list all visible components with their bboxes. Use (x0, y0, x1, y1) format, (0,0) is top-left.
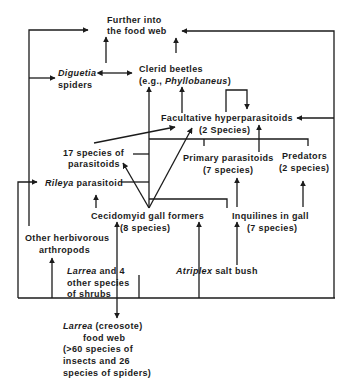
node-atriplex-salt-bush: Atriplex salt bush (175, 266, 258, 276)
predators-line1: Predators (282, 151, 327, 161)
larrea-web-line2: food web (83, 333, 125, 343)
primary-line1: Primary parasitoids (183, 153, 274, 163)
clerid-line1: Clerid beetles (139, 64, 203, 74)
node-cecidomyid-gall-formers: Cecidomyid gall formers (8 species) (91, 211, 204, 233)
node-inquilines-in-gall: Inquilines in gall (7 species) (232, 211, 309, 233)
node-rileya-parasitoid: Rileya parasitoid (45, 178, 123, 188)
cecidomyid-line1: Cecidomyid gall formers (91, 211, 204, 221)
clerid-genus: Phyllobaneus (165, 76, 228, 86)
further-line1: Further into (107, 15, 162, 25)
node-facultative-hyperparasitoids: Facultative hyperparasitoids (2 Species) (161, 113, 293, 135)
node-clerid-beetles: Clerid beetles (e.g., Phyllobaneus) (139, 64, 231, 86)
node-further-into-food-web: Further into the food web (107, 15, 167, 36)
larrea-shrubs-line3: of shrubs (67, 289, 111, 299)
rileya-label: Rileya parasitoid (45, 178, 123, 188)
node-larrea-and-shrubs: Larrea and 4 other species of shrubs (67, 266, 130, 299)
diguetia-genus: Diguetia (58, 68, 96, 78)
primary-line2: (7 species) (203, 165, 253, 175)
larrea-shrubs-genus: Larrea (67, 266, 97, 276)
larrea-shrubs-line1: Larrea and 4 (67, 266, 125, 276)
rileya-suffix: parasitoid (74, 178, 123, 188)
clerid-prefix: (e.g., (139, 76, 165, 86)
node-predators: Predators (2 species) (279, 151, 329, 173)
facultative-line2: (2 Species) (199, 125, 250, 135)
clerid-suffix: ) (228, 76, 231, 86)
bracket-primary-predators (149, 139, 308, 146)
node-primary-parasitoids: Primary parasitoids (7 species) (183, 153, 274, 175)
arrow-left-loop-to-further (29, 30, 88, 226)
atriplex-suffix: salt bush (212, 266, 258, 276)
larrea-shrubs-line2: other species (67, 278, 130, 288)
atriplex-label: Atriplex salt bush (175, 266, 258, 276)
inquilines-line1: Inquilines in gall (232, 211, 309, 221)
parasitoids17-line1: 17 species of (63, 148, 125, 158)
node-diguetia-spiders: Diguetia spiders (58, 68, 96, 90)
other-herbivores-line1: Other herbivorous (25, 233, 109, 243)
larrea-shrubs-suffix: and 4 (97, 266, 125, 276)
larrea-web-genus: Larrea (63, 321, 93, 331)
facultative-line1: Facultative hyperparasitoids (161, 113, 293, 123)
line-cecidomyid-to-inquilines (149, 199, 227, 208)
larrea-web-line1: Larrea (creosote) (63, 321, 143, 331)
arrow-cecidomyid-to-facultative (149, 128, 192, 208)
atriplex-genus: Atriplex (175, 266, 213, 276)
clerid-line2: (e.g., Phyllobaneus) (139, 76, 231, 86)
node-larrea-creosote-food-web: Larrea (creosote) food web (>60 species … (63, 321, 151, 378)
node-17-species-parasitoids: 17 species of parasitoids (63, 148, 125, 169)
predators-line2: (2 species) (279, 163, 329, 173)
rileya-genus: Rileya (45, 178, 74, 188)
other-herbivores-line2: arthropods (39, 245, 90, 255)
parasitoids17-line2: parasitoids (68, 159, 120, 169)
node-other-herbivorous-arthropods: Other herbivorous arthropods (24, 231, 110, 255)
arrow-facultative-self-loop (226, 90, 247, 112)
arrow-cecidomyid-to-17-parasitoids (123, 163, 149, 208)
cecidomyid-line2: (8 species) (120, 223, 170, 233)
diguetia-line2: spiders (58, 80, 92, 90)
larrea-web-line5: species of spiders) (63, 368, 151, 378)
larrea-web-line4: insects and 26 (63, 356, 130, 366)
larrea-web-suffix: (creosote) (93, 321, 143, 331)
inquilines-line2: (7 species) (247, 223, 297, 233)
larrea-web-line3: (>60 species of (63, 344, 134, 354)
further-line2: the food web (107, 26, 167, 36)
food-web-diagram: Further into the food web Diguetia spide… (0, 0, 347, 386)
arrow-17-parasitoids-to-facultative (94, 127, 175, 143)
